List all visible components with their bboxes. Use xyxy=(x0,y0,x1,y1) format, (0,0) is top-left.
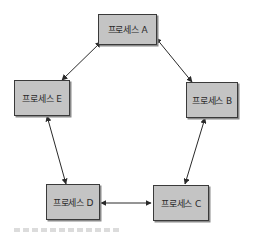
process-d-node: 프로세스 D xyxy=(46,184,100,220)
process-a-node: 프로세스 A xyxy=(98,14,157,45)
process-e-node: 프로세스 E xyxy=(14,80,70,116)
process-a-label: 프로세스 A xyxy=(108,23,148,36)
process-d-label: 프로세스 D xyxy=(53,196,94,209)
edge-d-e xyxy=(47,116,66,184)
process-c-label: 프로세스 C xyxy=(161,197,201,210)
edge-e-a xyxy=(62,42,101,80)
process-b-node: 프로세스 B xyxy=(186,82,238,118)
process-e-label: 프로세스 E xyxy=(22,92,61,105)
process-ring-diagram: 프로세스 A 프로세스 B 프로세스 C 프로세스 D 프로세스 E xyxy=(0,0,255,236)
edge-a-b xyxy=(156,38,192,82)
edge-b-c xyxy=(185,118,205,184)
process-c-node: 프로세스 C xyxy=(153,185,209,221)
figure-caption-faint xyxy=(14,228,119,232)
process-b-label: 프로세스 B xyxy=(192,94,232,107)
